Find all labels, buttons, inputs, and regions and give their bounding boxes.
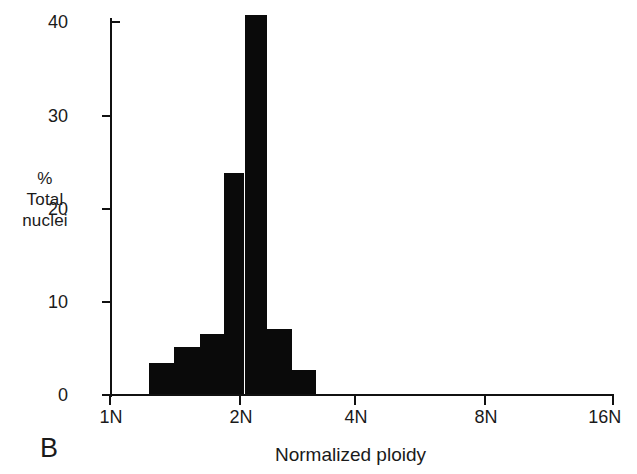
panel-label: B	[40, 433, 59, 463]
x-tick-label-16n: 16N	[588, 407, 621, 427]
x-tick-mark-2n	[239, 396, 241, 405]
x-tick-label-2n: 2N	[229, 407, 252, 427]
x-axis-line	[110, 394, 614, 396]
bar	[224, 173, 244, 395]
bar	[267, 329, 292, 395]
bar	[174, 347, 200, 395]
x-tick-label-8n: 8N	[474, 407, 497, 427]
figure-panel-b: % Total nuclei 0 10 20 30 40 1N 2N 4	[0, 0, 637, 474]
x-tick-mark-1n	[109, 396, 111, 405]
bar	[292, 370, 316, 395]
x-tick-mark-16n	[612, 396, 614, 405]
bar	[245, 15, 267, 395]
x-axis-title: Normalized ploidy	[275, 444, 426, 466]
x-tick-label-1n: 1N	[99, 407, 122, 427]
x-tick-mark-8n	[484, 396, 486, 405]
bar	[200, 334, 224, 395]
bar	[149, 363, 175, 395]
x-tick-mark-4n	[354, 396, 356, 405]
plot-area	[0, 0, 637, 474]
x-tick-label-4n: 4N	[344, 407, 367, 427]
